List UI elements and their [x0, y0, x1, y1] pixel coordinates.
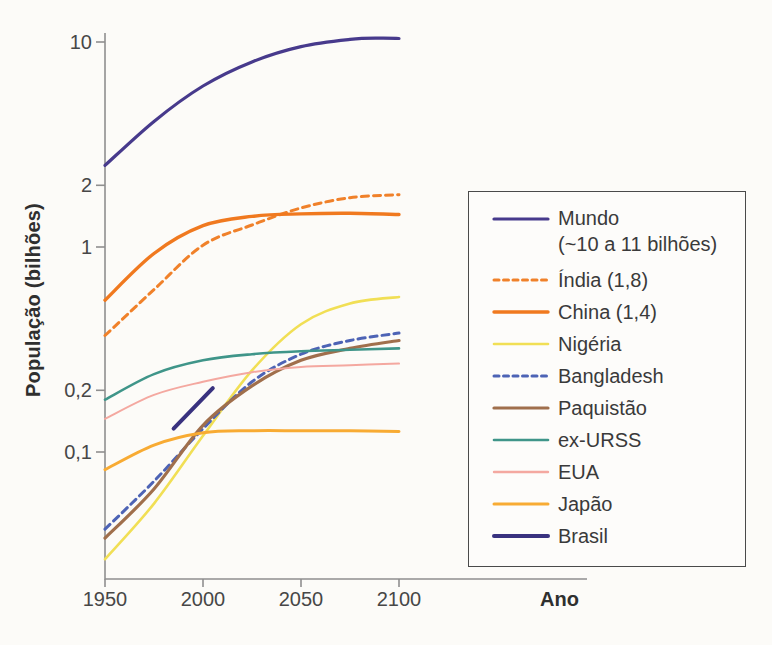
x-tick-label-2000: 2000: [171, 588, 235, 610]
series-line-Japão: [105, 431, 399, 470]
legend-box: Mundo (~10 a 11 bilhões) Índia (1,8) Chi…: [468, 191, 746, 567]
legend-line-mundo: [491, 205, 551, 233]
series-line-Nigéria: [105, 297, 399, 559]
x-tick-label-2050: 2050: [269, 588, 333, 610]
legend-item-bangladesh: Bangladesh: [491, 360, 745, 392]
legend-item-china: China (1,4): [491, 296, 745, 328]
legend-line-brasil: [491, 522, 551, 550]
population-projection-figure: População (bilhões) Ano 10 2 1 0,2 0,1 1…: [0, 0, 772, 645]
legend-label-eua: EUA: [558, 459, 599, 485]
legend-sublabel-mundo: (~10 a 11 bilhões): [558, 231, 717, 257]
legend-item-india: Índia (1,8): [491, 264, 745, 296]
y-tick-label-2: 2: [50, 173, 92, 197]
legend-line-ex-urss: [491, 426, 551, 454]
legend-line-eua: [491, 458, 551, 486]
x-axis-title: Ano: [540, 588, 594, 611]
y-tick-label-1: 1: [50, 235, 92, 259]
legend-label-india: Índia (1,8): [558, 267, 648, 293]
legend-item-japao: Japão: [491, 488, 745, 520]
legend-label-china: China (1,4): [558, 299, 657, 325]
y-tick-label-0-2: 0,2: [50, 378, 92, 402]
legend-label-ex-urss: ex-URSS: [558, 427, 641, 453]
y-axis-title: População (bilhões): [22, 185, 45, 415]
legend-line-nigeria: [491, 330, 551, 358]
x-tick-label-2100: 2100: [367, 588, 431, 610]
legend-item-eua: EUA: [491, 456, 745, 488]
legend-item-ex-urss: ex-URSS: [491, 424, 745, 456]
legend-label-brasil: Brasil: [558, 523, 608, 549]
y-tick-label-10: 10: [50, 30, 92, 54]
legend-item-nigeria: Nigéria: [491, 328, 745, 360]
legend-item-paquistao: Paquistão: [491, 392, 745, 424]
legend-item-mundo: Mundo (~10 a 11 bilhões): [491, 205, 745, 257]
legend-line-china: [491, 298, 551, 326]
series-line-ex-URSS: [105, 348, 399, 399]
legend-label-mundo: Mundo: [558, 205, 717, 231]
legend-label-nigeria: Nigéria: [558, 331, 621, 357]
legend-item-brasil: Brasil: [491, 520, 745, 552]
legend-label-bangladesh: Bangladesh: [558, 363, 664, 389]
series-line-Mundo: [105, 38, 399, 165]
series-line-EUA: [105, 364, 399, 419]
legend-label-japao: Japão: [558, 491, 613, 517]
legend-line-bangladesh: [491, 362, 551, 390]
legend-line-paquistao: [491, 394, 551, 422]
x-tick-label-1950: 1950: [73, 588, 137, 610]
legend-line-india: [491, 266, 551, 294]
legend-label-paquistao: Paquistão: [558, 395, 647, 421]
legend-line-japao: [491, 490, 551, 518]
y-tick-label-0-1: 0,1: [50, 440, 92, 464]
